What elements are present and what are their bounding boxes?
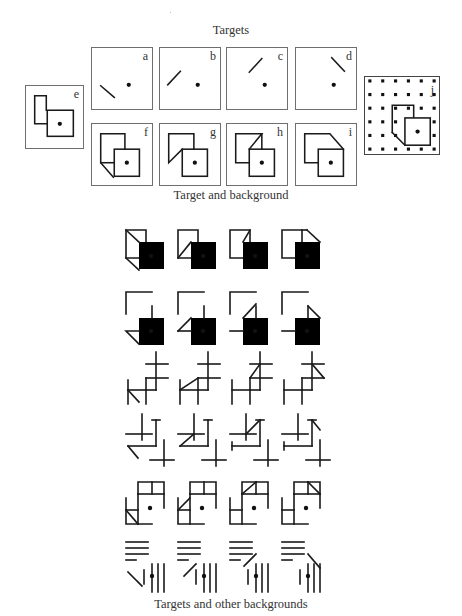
stroke-path <box>178 498 204 524</box>
stroke-segment <box>126 230 139 242</box>
stroke-path <box>242 482 268 508</box>
stroke-segment <box>184 564 196 576</box>
stimulus-figure <box>124 290 172 346</box>
stimulus-crosses-corners <box>124 414 172 470</box>
stroke-segment <box>180 378 198 390</box>
stimulus-figure <box>176 228 224 284</box>
background-dot <box>381 134 384 137</box>
stroke-segment <box>178 498 190 510</box>
stimulus-figure <box>280 290 328 346</box>
background-dot <box>407 107 410 110</box>
stroke-segment <box>307 230 320 242</box>
stimulus-occluding-squares <box>228 228 276 284</box>
caption-targets-and-other-backgrounds: Targets and other backgrounds <box>0 597 462 612</box>
background-dot <box>368 107 371 110</box>
stroke-segment <box>128 446 138 458</box>
panel-j: j <box>364 76 440 155</box>
overlapping-squares-e <box>26 86 83 148</box>
background-dot <box>368 79 371 82</box>
stimulus-figure <box>228 290 276 346</box>
background-dot <box>433 79 436 82</box>
squares-fold-i <box>296 124 356 185</box>
background-dot <box>394 107 397 110</box>
stroke-path <box>282 292 308 314</box>
background-dot <box>420 148 423 151</box>
stimulus-crosses-corners <box>280 414 328 470</box>
background-dot <box>433 107 436 110</box>
stimulus-split-squares <box>124 480 172 536</box>
background-dot <box>394 93 397 96</box>
stimulus-figure <box>228 352 276 408</box>
background-dot <box>394 120 397 123</box>
background-dot <box>368 134 371 137</box>
caption-targets: Targets <box>0 23 462 38</box>
stimulus-parallel-lines <box>280 540 328 596</box>
stimulus-split-squares <box>176 480 224 536</box>
background-dot <box>407 148 410 151</box>
squares-fold-h <box>227 124 287 185</box>
stimulus-figure <box>228 480 276 536</box>
background-dot <box>368 93 371 96</box>
stimulus-parallel-lines <box>228 540 276 596</box>
panel-h: h <box>226 123 288 186</box>
stroke-path <box>294 482 320 508</box>
background-dot <box>381 107 384 110</box>
stimulus-parallel-lines <box>176 540 224 596</box>
center-dot <box>150 574 154 578</box>
stimulus-figure <box>228 228 276 284</box>
stimulus-figure <box>280 414 328 470</box>
stroke-segment <box>246 420 260 434</box>
stroke-segment <box>250 364 260 378</box>
target-line-a <box>92 48 152 109</box>
stroke-segment <box>126 510 138 524</box>
center-dot <box>253 254 257 258</box>
background-dot <box>420 93 423 96</box>
target-line-d <box>296 48 356 109</box>
stimulus-parallel-lines <box>124 540 172 596</box>
background-dot <box>433 120 436 123</box>
center-dot <box>202 574 206 578</box>
stroke-path <box>126 292 152 314</box>
stimulus-figure <box>124 352 172 408</box>
background-dot <box>394 148 397 151</box>
stimulus-broken-corners <box>228 290 276 346</box>
panel-a: a <box>91 47 153 110</box>
stimulus-figure <box>228 414 276 470</box>
stroke-segment <box>128 390 139 402</box>
squares-fold-f <box>92 124 152 185</box>
center-dot <box>305 254 309 258</box>
stimulus-crosses-zigzag <box>176 352 224 408</box>
background-dot <box>381 148 384 151</box>
target-line-b <box>160 48 220 109</box>
stroke-segment <box>180 434 194 446</box>
background-dot <box>368 120 371 123</box>
speck <box>170 12 171 13</box>
panel-i: i <box>295 123 357 186</box>
stimulus-figure <box>176 290 224 346</box>
stroke-segment <box>312 420 320 430</box>
background-dot <box>433 134 436 137</box>
center-dot <box>304 506 308 510</box>
stimulus-crosses-zigzag <box>124 352 172 408</box>
background-dot <box>381 79 384 82</box>
stimulus-split-squares <box>280 480 328 536</box>
stimulus-figure <box>124 540 172 596</box>
background-dot <box>433 93 436 96</box>
stimulus-figure <box>280 352 328 408</box>
background-dot <box>394 79 397 82</box>
stimulus-figure <box>124 480 172 536</box>
stroke-path <box>126 498 152 524</box>
center-dot <box>201 254 205 258</box>
stroke-path <box>138 482 164 508</box>
stimulus-broken-corners <box>176 290 224 346</box>
stimulus-figure <box>124 414 172 470</box>
stimulus-figure <box>228 540 276 596</box>
stroke-segment <box>128 572 142 586</box>
center-dot <box>252 506 256 510</box>
stimulus-occluding-squares <box>176 228 224 284</box>
center-dot <box>254 574 258 578</box>
stimulus-figure <box>176 352 224 408</box>
center-dot <box>306 574 310 578</box>
stroke-segment <box>244 554 256 566</box>
stroke-path <box>282 498 308 524</box>
